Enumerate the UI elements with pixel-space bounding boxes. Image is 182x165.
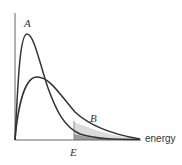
curve-a-label: A — [24, 17, 31, 29]
x-axis-label: energy — [145, 133, 176, 144]
curve-b-label: B — [90, 112, 97, 124]
threshold-label: E — [70, 146, 77, 158]
